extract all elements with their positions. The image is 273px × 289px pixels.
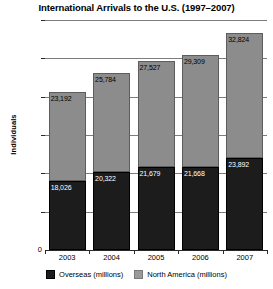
bar-segment-overseas[interactable]: 21,679 xyxy=(138,167,175,250)
y-axis-tick-mark xyxy=(41,135,45,136)
bar-group[interactable]: 18,02623,192 xyxy=(49,20,86,250)
bar-segment-overseas[interactable]: 23,892 xyxy=(226,158,263,250)
bar-segment-north-america[interactable]: 27,527 xyxy=(138,61,175,167)
bar-segment-north-america[interactable]: 25,784 xyxy=(93,73,130,172)
y-axis-tick-mark xyxy=(41,212,45,213)
chart-title: International Arrivals to the U.S. (1997… xyxy=(0,2,273,13)
chart-legend: Overseas (millions) North America (milli… xyxy=(0,270,273,279)
y-axis-tick-mark xyxy=(41,58,45,59)
bar-value-label-north-america: 25,784 xyxy=(95,76,116,83)
bar-value-label-overseas: 23,892 xyxy=(228,161,249,168)
bar-group[interactable]: 21,67927,527 xyxy=(138,20,175,250)
bar-value-label-overseas: 18,026 xyxy=(51,184,72,191)
y-axis-tick-mark xyxy=(41,20,45,21)
bar-segment-north-america[interactable]: 23,192 xyxy=(49,92,86,181)
legend-swatch-north-america-icon xyxy=(134,270,143,279)
y-axis-zero-label: 0 xyxy=(30,245,42,254)
bar-value-label-overseas: 21,668 xyxy=(184,170,205,177)
bar-value-label-overseas: 20,322 xyxy=(95,175,116,182)
x-axis-tick-label: 2007 xyxy=(222,253,268,262)
plot-area: 10,00020,00030,00040,00050,00060,00018,0… xyxy=(45,20,267,250)
bar-segment-north-america[interactable]: 32,824 xyxy=(226,33,263,159)
bar-segment-overseas[interactable]: 18,026 xyxy=(49,181,86,250)
bar-segment-overseas[interactable]: 21,668 xyxy=(182,167,219,250)
y-axis-tick-mark xyxy=(41,173,45,174)
legend-swatch-overseas-icon xyxy=(46,270,55,279)
bar-value-label-north-america: 29,309 xyxy=(184,58,205,65)
bar-group[interactable]: 20,32225,784 xyxy=(93,20,130,250)
x-axis-tick-label: 2006 xyxy=(177,253,223,262)
bar-value-label-north-america: 23,192 xyxy=(51,95,72,102)
legend-item-overseas: Overseas (millions) xyxy=(46,270,123,279)
bar-value-label-overseas: 21,679 xyxy=(140,170,161,177)
legend-label-overseas: Overseas (millions) xyxy=(59,270,123,279)
y-axis-title: Individuals xyxy=(9,90,18,180)
legend-label-north-america: North America (millions) xyxy=(147,270,227,279)
bar-segment-overseas[interactable]: 20,322 xyxy=(93,172,130,250)
bar-segment-north-america[interactable]: 29,309 xyxy=(182,55,219,167)
legend-item-north-america: North America (millions) xyxy=(134,270,227,279)
bar-group[interactable]: 23,89232,824 xyxy=(226,20,263,250)
bar-group[interactable]: 21,66829,309 xyxy=(182,20,219,250)
y-axis-tick-mark xyxy=(41,97,45,98)
chart-container: International Arrivals to the U.S. (1997… xyxy=(0,0,273,289)
x-axis-tick-label: 2004 xyxy=(89,253,135,262)
bar-value-label-north-america: 27,527 xyxy=(140,64,161,71)
bar-value-label-north-america: 32,824 xyxy=(228,36,249,43)
x-axis-tick-label: 2005 xyxy=(133,253,179,262)
x-axis-tick-label: 2003 xyxy=(44,253,90,262)
x-axis-baseline xyxy=(45,250,267,251)
